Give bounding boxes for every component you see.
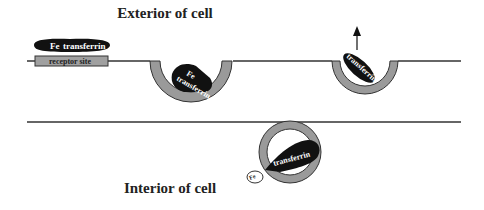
internal-vesicle: transferrin Fe (247, 121, 321, 183)
transferrin-label: transferrin (63, 41, 106, 51)
recycling-pit: transferrin (332, 26, 398, 94)
binding-stage: receptor site Fe transferrin (34, 39, 110, 66)
up-arrow-icon (353, 26, 361, 36)
transferrin-cycle-diagram: Exterior of cell Interior of cell recept… (0, 0, 484, 210)
interior-title: Interior of cell (124, 180, 216, 196)
fe-label: Fe (50, 41, 60, 51)
exterior-title: Exterior of cell (117, 5, 213, 21)
endocytosis-pit: Fe transferrin (150, 61, 232, 102)
receptor-site-label: receptor site (49, 57, 92, 66)
